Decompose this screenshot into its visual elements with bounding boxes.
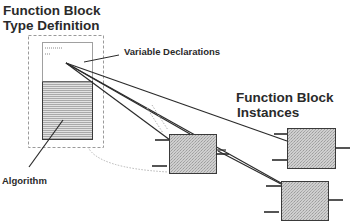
algorithm-label: Algorithm [2,176,47,186]
instance-link-line [218,151,281,184]
instance-block-3 [264,182,343,221]
type-definition-block [43,43,93,140]
diagram-canvas: Function Block Type Definition Variable … [0,0,351,224]
instances-title: Function Block Instances [236,90,334,120]
type-definition-title-line1: Function Block [3,3,101,18]
instance-block-2 [272,129,350,169]
instance-block-1 [152,135,229,174]
instances-title-line2: Instances [236,105,334,120]
instances-title-line1: Function Block [236,90,334,105]
algorithm-area [43,82,93,140]
variable-declarations-label: Variable Declarations [124,47,220,57]
type-definition-title: Function Block Type Definition [3,3,101,33]
type-definition-title-line2: Type Definition [3,18,101,33]
